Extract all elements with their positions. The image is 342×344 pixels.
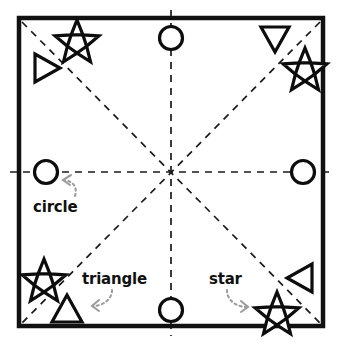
label-triangle: triangle	[82, 272, 147, 287]
callout-arrowhead-circle	[63, 175, 71, 185]
circle-top-center	[160, 27, 183, 50]
circle-right-middle	[292, 161, 315, 184]
label-star: star	[209, 272, 242, 287]
circle-bottom-center	[160, 299, 183, 322]
triangle-right-pointing	[35, 54, 60, 82]
triangle-down-pointing	[261, 27, 289, 52]
circle-left-middle	[35, 161, 58, 184]
shape-arrangement-figure	[0, 0, 342, 344]
label-circle: circle	[33, 200, 77, 215]
diagram-canvas: circle triangle star	[0, 0, 342, 344]
star-top-right	[283, 48, 327, 90]
star-bottom-left	[22, 259, 66, 301]
callout-arrows	[63, 175, 248, 312]
star-top-left	[55, 20, 99, 62]
triangle-left-pointing	[287, 264, 312, 292]
